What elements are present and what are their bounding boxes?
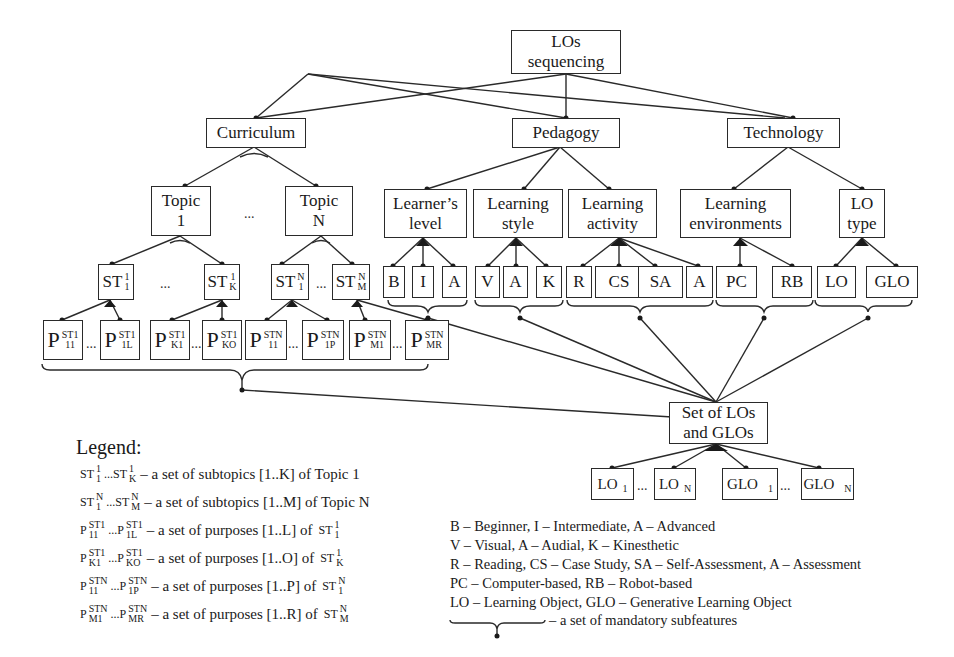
leaf-beginner: B (383, 266, 405, 298)
legend-title: Legend: (76, 436, 142, 459)
leaf-kinesthetic: K (536, 266, 562, 298)
node-purpose: PST11L (100, 320, 140, 360)
node-set-of-los-and-glos: Set of LOs and GLOs (669, 402, 768, 444)
node-purpose: PST1KO (202, 320, 242, 360)
node-curriculum: Curriculum (206, 118, 306, 148)
node-purpose: PSTNM1 (349, 320, 391, 360)
feature-diagram: LOs sequencing Curriculum Pedagogy Techn… (0, 0, 954, 657)
node-learners-level: Learner’s level (384, 189, 467, 238)
leaf-intermediate: I (412, 266, 434, 298)
node-purpose: PSTNMR (405, 320, 449, 360)
legend-row: PSTN11 ...PSTN1P – a set of purposes [1.… (80, 576, 345, 596)
node-purpose: PST1K1 (150, 320, 190, 360)
abbreviation-line: LO – Learning Object, GLO – Generative L… (450, 594, 792, 611)
leaf-assessment: A (686, 266, 713, 298)
node-subtopic: STN1 (271, 264, 309, 300)
ellipsis: ... (392, 336, 403, 352)
node-subtopic: STNM (332, 264, 370, 300)
node-lo-instance: LON (654, 468, 696, 500)
node-subtopic: ST1K (204, 264, 240, 300)
node-pedagogy: Pedagogy (512, 118, 620, 148)
ellipsis: ... (780, 478, 791, 494)
legend-row: PSTNM1 ...PSTNMR – a set of purposes [1.… (80, 604, 349, 624)
node-lo-instance: LO1 (591, 468, 634, 500)
node-glo-instance: GLO1 (722, 468, 778, 500)
leaf-self-assessment: SA (638, 266, 683, 298)
leaf-case-study: CS (595, 266, 643, 298)
leaf-glo: GLO (866, 266, 918, 298)
node-glo-instance: GLON (801, 468, 854, 500)
abbreviation-line: R – Reading, CS – Case Study, SA – Self-… (450, 556, 861, 573)
ellipsis: ... (191, 336, 202, 352)
ellipsis: ... (160, 276, 171, 292)
node-learning-style: Learning style (473, 189, 563, 238)
leaf-lo: LO (817, 266, 856, 298)
abbreviation-line: PC – Computer-based, RB – Robot-based (450, 575, 692, 592)
node-learning-environments: Learning environments (680, 189, 791, 238)
ellipsis: ... (316, 276, 327, 292)
node-learning-activity: Learning activity (568, 189, 657, 238)
root-node-los-sequencing: LOs sequencing (511, 30, 621, 74)
ellipsis: ... (637, 478, 648, 494)
leaf-visual: V (475, 266, 500, 298)
legend-row: PST1K1 ...PST1KO – a set of purposes [1.… (80, 548, 343, 568)
leaf-audial: A (503, 266, 528, 298)
node-lo-type: LO type (839, 189, 885, 238)
leaf-reading: R (566, 266, 592, 298)
abbreviation-line: V – Visual, A – Audial, K – Kinesthetic (450, 537, 679, 554)
node-topic-1: Topic 1 (151, 186, 211, 236)
ellipsis: ... (288, 336, 299, 352)
legend-row: STN1 ...STNM – a set of subtopics [1..M]… (80, 492, 369, 512)
mandatory-subfeatures-legend: – a set of mandatory subfeatures (549, 612, 737, 629)
leaf-advanced: A (442, 266, 467, 298)
legend-row: PST111 ...PST11L – a set of purposes [1.… (80, 520, 340, 540)
abbreviation-line: B – Beginner, I – Intermediate, A – Adva… (450, 518, 715, 535)
node-topic-n: Topic N (285, 186, 353, 236)
ellipsis: ... (86, 336, 97, 352)
node-subtopic: ST11 (98, 264, 134, 300)
node-purpose: PSTN11 (245, 320, 287, 360)
leaf-computer-based: PC (716, 266, 757, 298)
node-purpose: PSTN1P (302, 320, 344, 360)
legend-row: ST11 ...ST1K – a set of subtopics [1..K]… (80, 464, 360, 484)
leaf-robot-based: RB (772, 266, 812, 298)
node-purpose: PST111 (43, 320, 83, 360)
node-technology: Technology (727, 118, 840, 148)
ellipsis: ... (244, 206, 255, 222)
